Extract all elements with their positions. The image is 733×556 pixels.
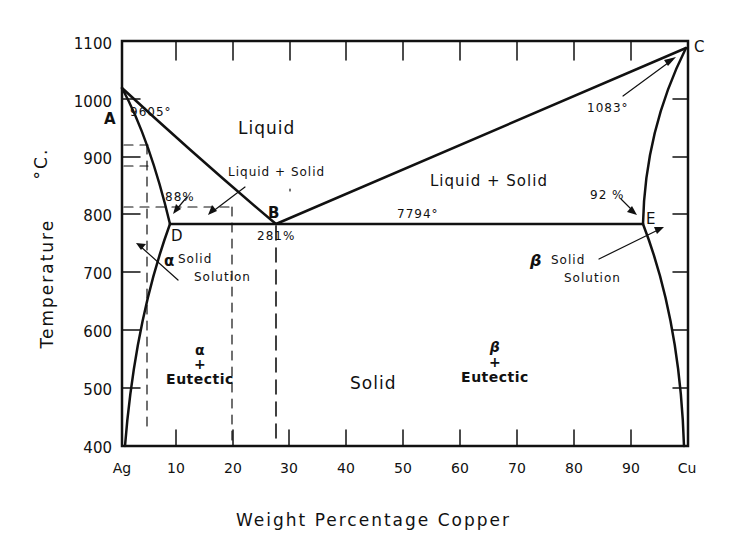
x-tick-90: 90: [611, 461, 651, 475]
point-e-label: E: [646, 212, 655, 227]
temp-c-annotation: 1083°: [587, 102, 629, 114]
top-ticks: [176, 41, 631, 60]
x-tick-20: 20: [213, 461, 253, 475]
y-tick-900: 900: [52, 152, 112, 167]
solvus-right: [643, 224, 684, 446]
beta-eutectic-plus: +: [455, 355, 535, 369]
x-tick-ag: Ag: [102, 461, 142, 475]
region-liquid: Liquid: [238, 120, 295, 137]
y-tick-500: 500: [52, 383, 112, 398]
alpha-eutectic-plus: +: [160, 357, 240, 371]
beta-eutectic-symbol: β: [455, 340, 535, 354]
x-tick-50: 50: [383, 461, 423, 475]
x-axis-title: Weight Percentage Copper: [236, 512, 511, 529]
y-tick-400: 400: [52, 441, 112, 456]
x-tick-80: 80: [554, 461, 594, 475]
region-solid: Solid: [350, 375, 396, 392]
alpha-symbol: α: [164, 254, 174, 269]
liquidus-right: [276, 48, 686, 224]
beta-solution-label: Solution: [564, 272, 621, 284]
bottom-ticks: [176, 430, 631, 446]
beta-eutectic-label: Eutectic: [455, 370, 535, 384]
x-tick-cu: Cu: [667, 461, 707, 475]
point-a-label: A: [104, 112, 116, 127]
y-tick-800: 800: [52, 209, 112, 224]
x-tick-60: 60: [440, 461, 480, 475]
region-liquid-solid-right: Liquid + Solid: [430, 174, 548, 189]
alpha-eutectic-label: Eutectic: [160, 372, 240, 386]
point-c-label: C: [694, 40, 704, 55]
solidus-right: [643, 48, 686, 224]
dashed-guides: [124, 145, 276, 440]
pct-b-annotation: 281%: [257, 230, 295, 242]
y-tick-1000: 1000: [52, 95, 112, 110]
beta-solid-label: Solid: [551, 254, 585, 266]
y-tick-1100: 1100: [52, 37, 112, 52]
x-tick-70: 70: [497, 461, 537, 475]
eutectic-temp-annotation: 7794°: [397, 208, 439, 220]
temp-a-annotation: 9605°: [130, 106, 172, 118]
beta-symbol: β: [530, 253, 541, 269]
x-tick-30: 30: [269, 461, 309, 475]
alpha-solid-label: Solid: [178, 253, 212, 265]
alpha-solution-label: Solution: [194, 271, 251, 283]
point-b-label: B: [268, 206, 279, 221]
pct-e-annotation: 92 %: [590, 189, 625, 201]
x-tick-10: 10: [156, 461, 196, 475]
point-d-label: D: [171, 229, 183, 244]
alpha-eutectic-symbol: α: [160, 343, 240, 357]
x-tick-40: 40: [326, 461, 366, 475]
pct-d-annotation: 88%: [165, 191, 195, 203]
region-liquid-solid-left: Liquid + Solid: [228, 166, 325, 178]
y-axis-title: Temperature: [39, 239, 56, 349]
annotation-arrows: [140, 60, 672, 280]
y-tick-700: 700: [52, 267, 112, 282]
y-axis-unit: °C.: [33, 148, 50, 180]
y-tick-600: 600: [52, 325, 112, 340]
